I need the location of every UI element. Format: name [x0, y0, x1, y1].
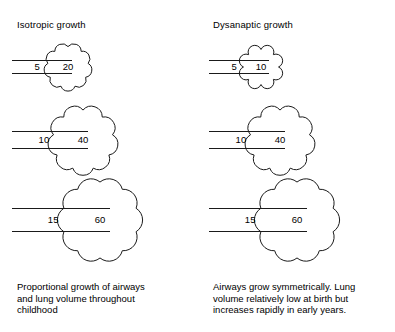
airway-value: 15: [240, 214, 260, 225]
growth-stage: 510: [197, 43, 394, 91]
airway-value: 10: [34, 134, 54, 145]
lung-volume-value: 40: [268, 134, 292, 145]
lung-volume-value: 60: [88, 214, 112, 225]
panel-title: Dysanaptic growth: [213, 19, 293, 30]
airway-value: 10: [231, 134, 251, 145]
lung-volume-value: 20: [56, 61, 80, 72]
lung-volume-value: 40: [71, 134, 95, 145]
lung-volume-value: 10: [249, 61, 273, 72]
caption-line: childhood: [17, 304, 192, 316]
panel-caption: Proportional growth of airwaysand lung v…: [17, 281, 192, 316]
growth-stage: 1560: [197, 168, 394, 272]
panel-dysanaptic: Dysanaptic growth 51010401560 Airways gr…: [197, 0, 394, 332]
growth-stage: 520: [0, 39, 197, 95]
airway-value: 5: [27, 61, 47, 72]
panel-caption: Airways grow symmetrically. Lungvolume r…: [213, 281, 388, 316]
caption-line: volume relatively low at birth but: [213, 293, 388, 305]
caption-line: and lung volume throughout: [17, 293, 192, 305]
caption-line: increases rapidly in early years.: [213, 304, 388, 316]
panel-isotropic: Isotropic growth 52010401560 Proportiona…: [0, 0, 197, 332]
airway-value: 15: [43, 214, 63, 225]
caption-line: Airways grow symmetrically. Lung: [213, 281, 388, 293]
caption-line: Proportional growth of airways: [17, 281, 192, 293]
airway-value: 5: [224, 61, 244, 72]
figure-canvas: Isotropic growth 52010401560 Proportiona…: [0, 0, 395, 332]
lung-volume-value: 60: [285, 214, 309, 225]
growth-stage: 1560: [0, 168, 197, 272]
panel-title: Isotropic growth: [17, 19, 86, 30]
